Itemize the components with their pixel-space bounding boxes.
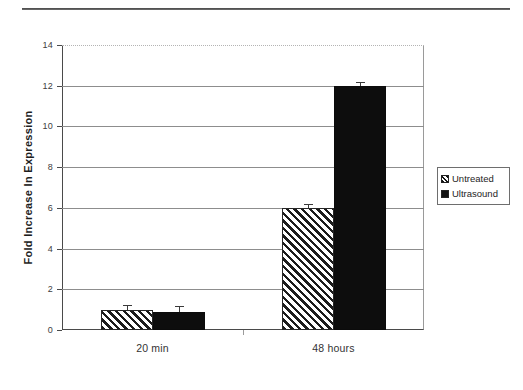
legend-label: Ultrasound: [452, 188, 498, 199]
y-axis-tick: [57, 167, 62, 168]
y-axis-label: Fold Increase In Expression: [20, 45, 36, 330]
plot-area: 02468101214: [62, 45, 424, 330]
solid-black-swatch-icon: [441, 190, 449, 198]
y-axis-tick: [57, 45, 62, 46]
y-tick-label: 4: [48, 244, 53, 254]
gridline: [62, 45, 424, 46]
y-axis-tick: [57, 208, 62, 209]
page-top-rule: [22, 8, 510, 10]
y-tick-label: 14: [43, 40, 53, 50]
y-axis-tick: [57, 249, 62, 250]
legend-item: Untreated: [441, 171, 506, 186]
error-bar-cap: [123, 305, 132, 306]
bar-untreated-20-min: [101, 310, 153, 330]
legend-item: Ultrasound: [441, 186, 506, 201]
y-tick-label: 0: [48, 325, 53, 335]
x-tick-label: 20 min: [136, 342, 169, 354]
y-axis-tick: [57, 126, 62, 127]
legend-label: Untreated: [452, 173, 494, 184]
hatched-swatch-icon: [441, 175, 449, 183]
y-tick-label: 12: [43, 81, 53, 91]
y-axis-tick: [57, 86, 62, 87]
y-tick-label: 10: [43, 121, 53, 131]
y-tick-label: 2: [48, 284, 53, 294]
x-axis-group-separator: [243, 330, 244, 335]
chart-legend: Untreated Ultrasound: [437, 167, 510, 205]
bar-ultrasound-20-min: [153, 312, 205, 330]
x-tick-label: 48 hours: [312, 342, 354, 354]
error-bar-cap: [356, 82, 365, 83]
error-bar-cap: [304, 204, 313, 205]
bar-ultrasound-48-hours: [334, 86, 386, 330]
bar-untreated-48-hours: [282, 208, 334, 330]
y-axis-tick: [57, 289, 62, 290]
figure-canvas: Fold Increase In Expression 02468101214 …: [0, 0, 523, 390]
error-bar-cap: [175, 306, 184, 307]
y-tick-label: 6: [48, 203, 53, 213]
y-tick-label: 8: [48, 162, 53, 172]
y-axis-tick: [57, 330, 62, 331]
